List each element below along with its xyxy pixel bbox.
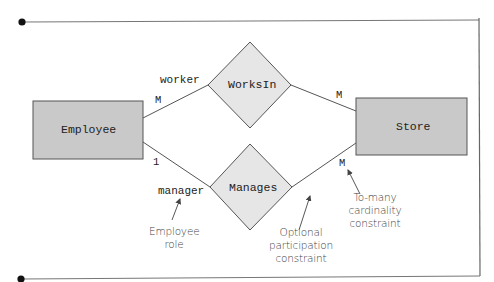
role-worker-label: worker bbox=[160, 74, 200, 86]
annotation-to-many-line-1: To-many bbox=[345, 191, 405, 204]
er-diagram-canvas bbox=[0, 0, 494, 282]
cardinality-employee-manages: 1 bbox=[153, 156, 159, 168]
annotation-optional-line-1: Optional bbox=[268, 226, 334, 239]
relationship-worksin-label: WorksIn bbox=[228, 78, 276, 91]
frame-right-edge bbox=[479, 18, 480, 276]
frame-bottom-rule bbox=[21, 276, 480, 279]
annotation-to-many-line-2: cardinality bbox=[345, 204, 405, 217]
frame-top-bullet bbox=[18, 18, 25, 25]
entity-employee-label: Employee bbox=[61, 123, 116, 136]
role-manager-label: manager bbox=[158, 185, 204, 197]
cardinality-worksin-store: M bbox=[336, 89, 342, 101]
annotation-employee-role-line-1: Employee bbox=[149, 225, 199, 238]
cardinality-manages-store: M bbox=[339, 157, 345, 169]
line-manages-store bbox=[292, 143, 356, 187]
relationship-manages-label: Manages bbox=[229, 181, 277, 194]
annotation-optional-line-2: participation bbox=[268, 239, 334, 252]
arrow-employee-role bbox=[172, 199, 180, 220]
line-employee-worksin bbox=[143, 85, 208, 118]
frame-bottom-bullet bbox=[17, 275, 24, 282]
annotation-employee-role-line-2: role bbox=[149, 238, 199, 251]
annotation-to-many-line-3: constraint bbox=[345, 217, 405, 230]
annotation-optional-line-3: constraint bbox=[268, 252, 334, 265]
line-worksin-store bbox=[291, 85, 356, 111]
arrow-optional-participation bbox=[299, 196, 310, 230]
frame-top-rule bbox=[22, 20, 479, 22]
annotation-to-many-cardinality: To-many cardinality constraint bbox=[345, 191, 405, 230]
entity-store-label: Store bbox=[396, 120, 431, 133]
annotation-optional-participation: Optional participation constraint bbox=[268, 226, 334, 265]
annotation-employee-role: Employee role bbox=[149, 225, 199, 251]
cardinality-employee-worksin: M bbox=[155, 94, 161, 106]
